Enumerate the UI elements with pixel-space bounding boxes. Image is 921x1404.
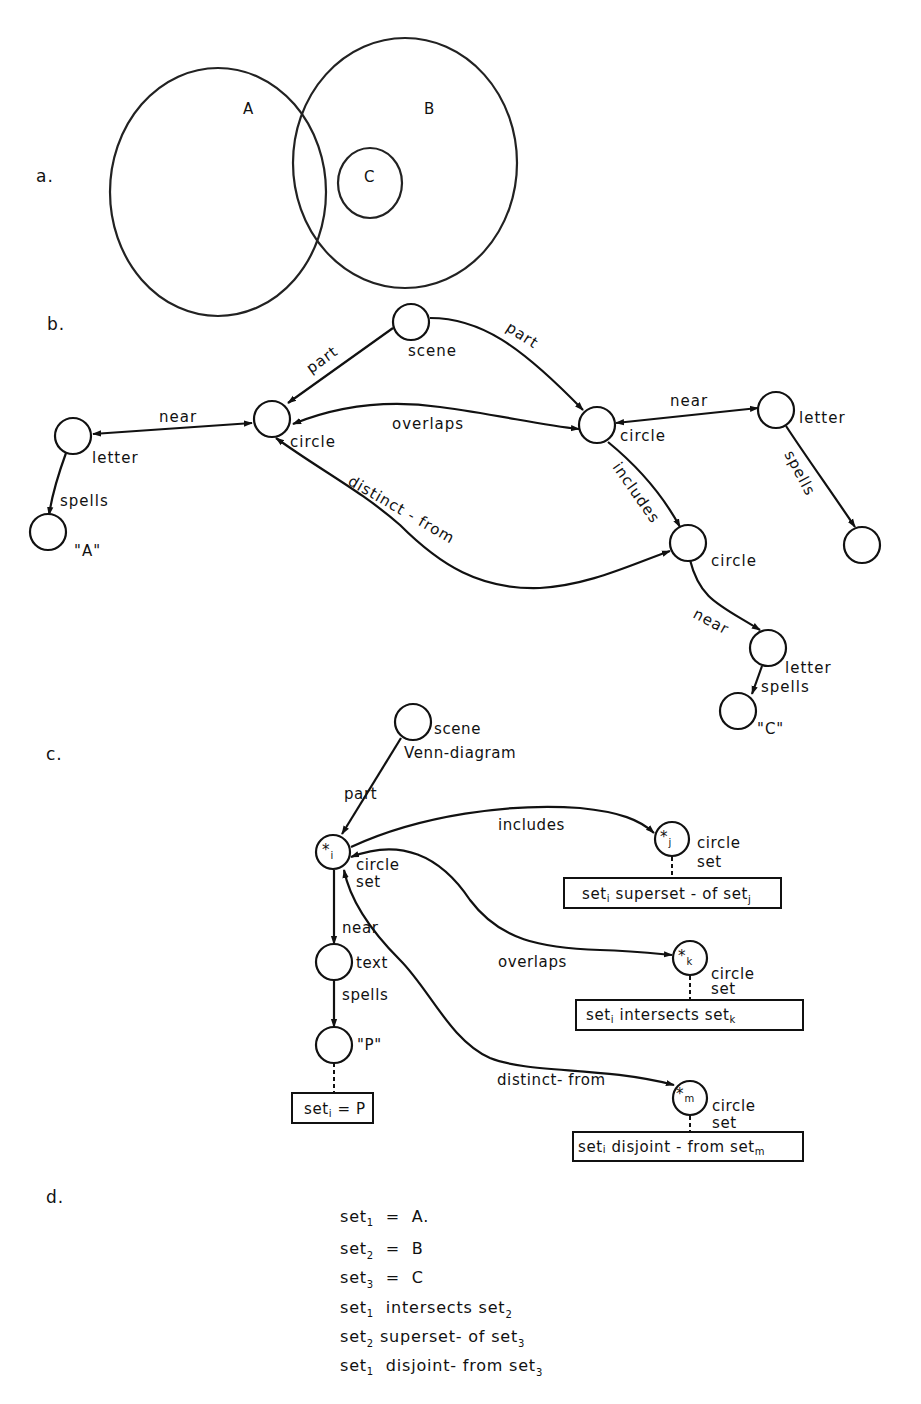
venn-label-b: B	[424, 100, 435, 118]
label-edge-overlaps: overlaps	[498, 953, 567, 971]
node-scene	[393, 304, 429, 340]
label-edge-distinct-from: distinct- from	[497, 1071, 606, 1089]
label-edge-overlaps: overlaps	[392, 415, 464, 433]
node-circle-b	[579, 407, 615, 443]
section-label-d: d.	[46, 1187, 64, 1207]
statement-2: set2 = B	[340, 1239, 424, 1261]
label-letter-c: letter	[785, 659, 832, 677]
label-p-value: "P"	[357, 1036, 382, 1054]
section-label-c: c.	[46, 744, 63, 764]
label-edge-part-right: part	[503, 318, 542, 352]
label-value-a: "A"	[74, 542, 101, 560]
section-c: c. *i *j *k *m scene Venn-diagram circle…	[46, 704, 803, 1161]
node-scene-venn	[395, 704, 431, 740]
node-circle-a	[254, 401, 290, 437]
label-edge-spells-b: spells	[780, 447, 819, 498]
box-equals-text: seti = P	[304, 1100, 366, 1119]
label-k-type-set: set	[711, 980, 736, 998]
label-circle-b: circle	[620, 427, 666, 445]
label-edge-spells-a: spells	[60, 492, 109, 510]
label-edge-spells-c: spells	[761, 678, 810, 696]
venn-semantic-network-figure: a. A B C b. scene circle	[0, 0, 921, 1404]
node-value-a	[30, 514, 66, 550]
label-j-type-set: set	[697, 853, 722, 871]
section-d: d. set1 = A. set2 = B set3 = C set1 inte…	[46, 1187, 543, 1378]
section-b: b. scene circle circle circle letter let…	[30, 304, 880, 738]
label-edge-includes: includes	[498, 816, 565, 834]
label-edge-part: part	[344, 785, 377, 803]
node-letter-b	[758, 392, 794, 428]
venn-label-a: A	[243, 100, 254, 118]
statement-4: set1 intersects set2	[340, 1298, 513, 1320]
venn-circle-b	[293, 38, 517, 288]
label-text-node: text	[356, 954, 388, 972]
section-a: a. A B C	[36, 38, 517, 316]
edge-near-b	[616, 408, 758, 423]
label-m-type-set: set	[712, 1114, 737, 1132]
label-edge-spells: spells	[342, 986, 388, 1004]
statement-6: set1 disjoint- from set3	[340, 1356, 543, 1378]
label-i-type-circle: circle	[356, 856, 400, 874]
label-letter-b: letter	[799, 409, 846, 427]
label-letter-a: letter	[92, 449, 139, 467]
node-letter-c	[750, 630, 786, 666]
label-scene: scene	[434, 720, 481, 738]
node-text	[316, 944, 352, 980]
label-circle-a: circle	[290, 433, 336, 451]
box-intersects-text: seti intersects setk	[586, 1006, 736, 1025]
label-j-type-circle: circle	[697, 834, 741, 852]
section-label-a: a.	[36, 166, 54, 186]
edge-distinct-from	[276, 438, 670, 588]
statement-3: set3 = C	[340, 1268, 424, 1290]
label-edge-near-b: near	[670, 392, 708, 410]
label-edge-part-left: part	[303, 342, 342, 377]
label-venn-diagram: Venn-diagram	[404, 744, 516, 762]
label-edge-distinct-from: distinct - from	[345, 472, 458, 548]
node-value-b	[844, 527, 880, 563]
box-disjoint-text: seti disjoint - from setm	[578, 1138, 765, 1157]
label-m-type-circle: circle	[712, 1097, 756, 1115]
node-letter-a	[55, 418, 91, 454]
node-p	[316, 1027, 352, 1063]
label-circle-c: circle	[711, 552, 757, 570]
label-edge-near: near	[342, 919, 379, 937]
node-circle-c	[670, 525, 706, 561]
statement-5: set2 superset- of set3	[340, 1327, 525, 1349]
statement-1: set1 = A.	[340, 1207, 429, 1228]
section-label-b: b.	[47, 314, 65, 334]
venn-circle-a	[110, 68, 326, 316]
label-scene: scene	[408, 342, 457, 360]
label-edge-near-a: near	[159, 408, 197, 426]
node-value-c	[720, 693, 756, 729]
venn-label-c: C	[364, 168, 375, 186]
label-value-c: "C"	[757, 720, 784, 738]
label-i-type-set: set	[356, 873, 381, 891]
